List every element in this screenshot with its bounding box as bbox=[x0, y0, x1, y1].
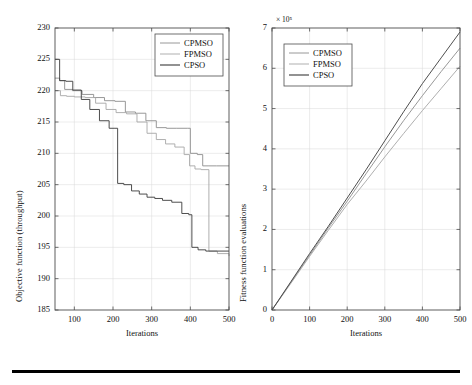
left-x-axis-label: Iterations bbox=[35, 328, 249, 338]
legend-label-cpso: CPSO bbox=[313, 70, 334, 80]
legend-label-cpso: CPSO bbox=[184, 60, 205, 70]
x-tick-label: 300 bbox=[365, 314, 405, 324]
right-chart-svg: CPMSOFPMSOCPSO bbox=[236, 0, 472, 362]
y-tick-label: 230 bbox=[15, 22, 50, 32]
y-tick-label: 4 bbox=[232, 143, 267, 153]
x-tick-label: 300 bbox=[132, 314, 172, 324]
y-tick-label: 215 bbox=[15, 116, 50, 126]
legend: CPMSOFPMSOCPSO bbox=[284, 44, 352, 86]
right-y-axis-exponent: × 10⁵ bbox=[276, 15, 292, 24]
legend: CPMSOFPMSOCPSO bbox=[155, 34, 223, 76]
right-chart-panel: CPMSOFPMSOCPSO Fitness function evaluati… bbox=[236, 0, 472, 362]
y-tick-label: 205 bbox=[15, 179, 50, 189]
y-tick-label: 2 bbox=[232, 223, 267, 233]
y-tick-label: 225 bbox=[15, 53, 50, 63]
legend-label-fpmso: FPMSO bbox=[313, 59, 341, 69]
x-tick-label: 400 bbox=[402, 314, 442, 324]
x-tick-label: 200 bbox=[327, 314, 367, 324]
y-tick-label: 7 bbox=[232, 22, 267, 32]
y-tick-label: 190 bbox=[15, 273, 50, 283]
y-tick-label: 195 bbox=[15, 241, 50, 251]
left-chart-panel: CPMSOFPMSOCPSO Objective function (throu… bbox=[0, 0, 236, 362]
x-tick-label: 100 bbox=[54, 314, 94, 324]
x-tick-label: 200 bbox=[93, 314, 133, 324]
x-tick-label: 400 bbox=[170, 314, 210, 324]
y-tick-label: 0 bbox=[232, 304, 267, 314]
legend-label-fpmso: FPMSO bbox=[184, 49, 212, 59]
legend-label-cpmso: CPMSO bbox=[184, 38, 213, 48]
x-tick-label: 500 bbox=[440, 314, 472, 324]
y-tick-label: 6 bbox=[232, 62, 267, 72]
y-tick-label: 3 bbox=[232, 183, 267, 193]
y-tick-label: 5 bbox=[232, 103, 267, 113]
right-x-axis-label: Iterations bbox=[252, 328, 472, 338]
figure-container: CPMSOFPMSOCPSO Objective function (throu… bbox=[0, 0, 472, 385]
legend-label-cpmso: CPMSO bbox=[313, 48, 342, 58]
y-tick-label: 1 bbox=[232, 264, 267, 274]
x-tick-label: 100 bbox=[290, 314, 330, 324]
y-tick-label: 220 bbox=[15, 85, 50, 95]
y-tick-label: 210 bbox=[15, 147, 50, 157]
y-tick-label: 200 bbox=[15, 210, 50, 220]
right-y-axis-label: Fitness function evaluations bbox=[238, 204, 248, 302]
y-tick-label: 185 bbox=[15, 304, 50, 314]
bottom-divider-rule bbox=[12, 370, 460, 373]
x-tick-label: 0 bbox=[252, 314, 292, 324]
